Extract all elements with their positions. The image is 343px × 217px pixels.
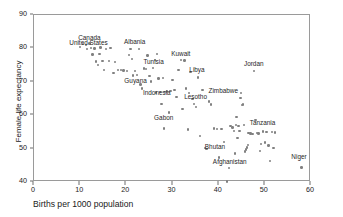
- data-point: [82, 43, 84, 45]
- data-point: [108, 60, 110, 62]
- data-point: [264, 141, 266, 143]
- data-point: [195, 106, 197, 108]
- data-point: [109, 47, 111, 49]
- x-tick-label: 40: [214, 186, 222, 193]
- point-label: Indonesia: [143, 89, 171, 96]
- point-label: Tanzania: [250, 119, 276, 126]
- data-point: [205, 148, 207, 150]
- data-point: [247, 132, 249, 134]
- data-point: [187, 128, 189, 130]
- data-point: [254, 119, 256, 121]
- data-point: [103, 69, 105, 71]
- data-point: [150, 80, 152, 82]
- data-point: [189, 71, 191, 73]
- data-point: [159, 91, 161, 93]
- data-point: [114, 61, 116, 63]
- data-point: [243, 124, 245, 126]
- data-point: [86, 48, 88, 50]
- data-point: [132, 74, 134, 76]
- point-label: Albania: [124, 38, 145, 45]
- data-point: [199, 135, 201, 137]
- data-point: [155, 91, 157, 93]
- x-tick-label: 30: [168, 186, 176, 193]
- data-point: [218, 156, 220, 158]
- data-point: [241, 104, 243, 106]
- point-label: Canada: [78, 34, 100, 41]
- x-tick-mark: [125, 181, 126, 185]
- data-point: [95, 60, 97, 62]
- data-point: [197, 76, 199, 78]
- data-point: [90, 47, 92, 49]
- data-point: [236, 137, 238, 139]
- data-point: [256, 132, 258, 134]
- data-point: [131, 58, 133, 60]
- point-label: Tunisia: [143, 58, 163, 65]
- data-point: [249, 132, 251, 134]
- data-point: [237, 125, 239, 127]
- data-point: [162, 77, 164, 79]
- data-point: [181, 108, 183, 110]
- data-point: [99, 46, 101, 48]
- data-point: [88, 42, 90, 44]
- data-points-layer: [34, 15, 309, 180]
- data-point: [180, 59, 182, 61]
- data-point: [157, 77, 159, 79]
- data-point: [146, 54, 148, 56]
- x-tick-label: 20: [121, 186, 129, 193]
- data-point: [120, 69, 122, 71]
- data-point: [98, 53, 100, 55]
- data-point: [216, 128, 218, 130]
- data-point: [240, 92, 242, 94]
- data-point: [223, 141, 225, 143]
- data-point: [79, 46, 81, 48]
- data-point: [139, 83, 141, 85]
- data-point: [246, 146, 248, 148]
- data-point: [129, 48, 131, 50]
- data-point: [231, 126, 233, 128]
- data-point: [257, 132, 259, 134]
- data-point: [164, 91, 166, 93]
- data-point: [235, 124, 237, 126]
- data-point: [91, 53, 93, 55]
- data-point: [168, 111, 170, 113]
- x-tick-label: 10: [75, 186, 83, 193]
- data-point: [183, 59, 185, 61]
- point-label: Gabon: [154, 114, 173, 121]
- data-point: [175, 96, 177, 98]
- data-point: [185, 87, 187, 89]
- data-point: [126, 70, 128, 72]
- data-point: [229, 125, 231, 127]
- y-axis-title: Female life expectancy: [14, 32, 23, 172]
- data-point: [148, 75, 150, 77]
- x-tick-mark: [33, 181, 34, 185]
- data-point: [191, 98, 193, 100]
- data-point: [274, 131, 276, 133]
- x-tick-mark: [171, 181, 172, 185]
- data-point: [262, 130, 264, 132]
- data-point: [134, 70, 136, 72]
- data-point: [173, 89, 175, 91]
- data-point: [265, 131, 267, 133]
- data-point: [171, 79, 173, 81]
- data-point: [208, 100, 210, 102]
- data-point: [156, 53, 158, 55]
- x-axis-title: Births per 1000 population: [33, 199, 133, 209]
- data-point: [143, 67, 145, 69]
- data-point: [247, 144, 249, 146]
- x-tick-mark: [217, 181, 218, 185]
- x-axis: 0102030405060: [33, 181, 310, 197]
- data-point: [163, 127, 165, 129]
- data-point: [177, 69, 179, 71]
- point-label: Bhutan: [205, 143, 225, 150]
- x-tick-label: 60: [306, 186, 314, 193]
- data-point: [269, 160, 271, 162]
- data-point: [101, 60, 103, 62]
- data-point: [235, 116, 237, 118]
- data-point: [112, 72, 114, 74]
- data-point: [138, 48, 140, 50]
- data-point: [105, 48, 107, 50]
- point-label: Kuwait: [171, 50, 190, 57]
- point-label: Guyana: [124, 77, 146, 84]
- data-point: [188, 92, 190, 94]
- data-point: [245, 148, 247, 150]
